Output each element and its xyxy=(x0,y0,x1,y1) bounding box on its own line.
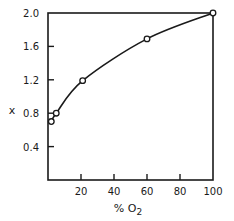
x-axis-ticks: 20406080100 xyxy=(75,174,223,197)
y-axis-label: x xyxy=(9,104,16,117)
x-tick-label: 20 xyxy=(75,186,88,197)
y-tick-label: 2.0 xyxy=(23,8,39,19)
chart: 20406080100 0.40.81.21.62.0 % O2 x xyxy=(0,0,234,221)
x-tick-label: 60 xyxy=(141,186,154,197)
y-tick-label: 0.4 xyxy=(23,142,39,153)
y-tick-label: 0.8 xyxy=(23,108,39,119)
data-point-marker xyxy=(53,110,59,116)
plot-frame xyxy=(48,13,213,180)
x-tick-label: 80 xyxy=(174,186,187,197)
x-tick-label: 100 xyxy=(203,186,222,197)
x-axis-label: % O2 xyxy=(114,202,142,217)
data-point-marker xyxy=(80,78,86,84)
x-tick-label: 40 xyxy=(108,186,121,197)
y-tick-label: 1.6 xyxy=(23,41,39,52)
data-point-marker xyxy=(210,10,216,16)
data-markers xyxy=(49,10,216,124)
y-tick-label: 1.2 xyxy=(23,75,39,86)
data-point-marker xyxy=(49,119,55,125)
data-point-marker xyxy=(144,36,150,42)
data-curve xyxy=(51,13,213,122)
y-axis-ticks: 0.40.81.21.62.0 xyxy=(23,8,54,153)
